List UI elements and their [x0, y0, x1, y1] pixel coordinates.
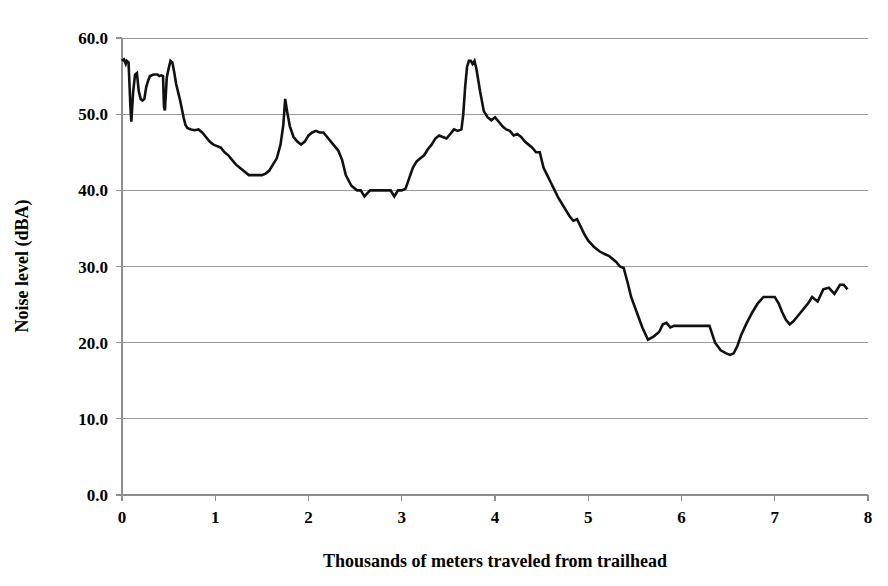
x-tick-label: 3: [398, 508, 407, 527]
x-tick-label: 7: [771, 508, 780, 527]
y-tick-label: 60.0: [78, 29, 108, 48]
chart-canvas: 0.010.020.030.040.050.060.0 012345678 Th…: [0, 0, 888, 586]
x-tick-label: 6: [677, 508, 686, 527]
y-tick-label: 40.0: [78, 181, 108, 200]
x-tick-label: 5: [584, 508, 593, 527]
y-tick-label: 10.0: [78, 410, 108, 429]
y-tick-label: 20.0: [78, 334, 108, 353]
x-tick-label: 8: [864, 508, 873, 527]
x-axis-title: Thousands of meters traveled from trailh…: [323, 551, 667, 571]
y-tick-label: 50.0: [78, 105, 108, 124]
y-tick-label: 0.0: [87, 486, 108, 505]
x-tick-label: 2: [304, 508, 313, 527]
y-axis-title: Noise level (dBA): [12, 200, 33, 333]
x-tick-label: 0: [118, 508, 127, 527]
x-tick-label: 4: [491, 508, 500, 527]
y-tick-label: 30.0: [78, 258, 108, 277]
noise-level-chart: 0.010.020.030.040.050.060.0 012345678 Th…: [0, 0, 888, 586]
x-tick-label: 1: [211, 508, 220, 527]
